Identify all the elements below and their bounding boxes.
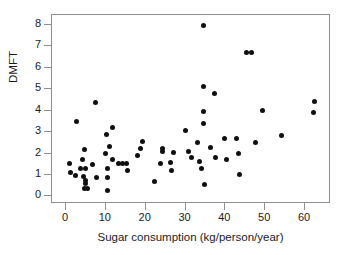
data-point <box>189 155 194 160</box>
data-point <box>312 99 317 104</box>
plot-frame <box>51 14 330 203</box>
y-tick-mark <box>44 174 51 175</box>
y-tick-mark <box>44 110 51 111</box>
data-point <box>183 128 188 133</box>
y-tick-label: 5 <box>1 82 41 93</box>
y-tick-mark <box>44 24 51 25</box>
x-tick-label: 60 <box>284 212 324 223</box>
y-tick-mark <box>44 67 51 68</box>
data-point <box>186 149 191 154</box>
data-point <box>160 149 165 154</box>
data-point <box>110 157 115 162</box>
data-point <box>82 147 87 152</box>
data-point <box>279 133 284 138</box>
data-point <box>94 175 99 180</box>
y-tick-label: 3 <box>1 125 41 136</box>
data-point <box>125 168 130 173</box>
y-tick-label: 2 <box>1 147 41 158</box>
data-point <box>105 166 110 171</box>
y-tick-label: 4 <box>1 104 41 115</box>
data-point <box>105 188 110 193</box>
data-point <box>135 153 140 158</box>
data-point <box>105 175 110 180</box>
data-point <box>107 144 112 149</box>
data-point <box>201 23 206 28</box>
data-point <box>124 161 129 166</box>
data-point <box>169 168 174 173</box>
data-point <box>201 109 206 114</box>
data-point <box>260 108 265 113</box>
plot-data-area <box>52 15 329 202</box>
y-tick-label: 6 <box>1 61 41 72</box>
data-point <box>208 145 213 150</box>
data-point <box>224 157 229 162</box>
data-point <box>73 173 78 178</box>
data-point <box>171 150 176 155</box>
data-point <box>93 100 98 105</box>
x-tick-mark <box>105 203 106 210</box>
data-point <box>83 181 88 186</box>
data-point <box>90 162 95 167</box>
data-point <box>202 182 207 187</box>
x-tick-mark <box>185 203 186 210</box>
data-point <box>104 132 109 137</box>
data-point <box>199 166 204 171</box>
x-tick-label: 50 <box>244 212 284 223</box>
data-point <box>201 84 206 89</box>
data-point <box>237 172 242 177</box>
y-tick-mark <box>44 45 51 46</box>
data-point <box>253 140 258 145</box>
x-tick-mark <box>145 203 146 210</box>
data-point <box>110 125 115 130</box>
data-point <box>212 91 217 96</box>
data-point <box>249 50 254 55</box>
data-point <box>140 139 145 144</box>
data-point <box>152 179 157 184</box>
data-point <box>195 140 200 145</box>
data-point <box>80 157 85 162</box>
x-tick-label: 40 <box>204 212 244 223</box>
y-tick-label: 1 <box>1 168 41 179</box>
x-tick-mark <box>264 203 265 210</box>
x-tick-mark <box>224 203 225 210</box>
x-tick-mark <box>304 203 305 210</box>
y-tick-mark <box>44 195 51 196</box>
data-point <box>158 161 163 166</box>
x-tick-mark <box>65 203 66 210</box>
data-point <box>67 161 72 166</box>
data-point <box>168 160 173 165</box>
y-tick-label: 0 <box>1 189 41 200</box>
data-point <box>74 119 79 124</box>
scatter-plot-figure: DMFT 012345678 0102030405060 Sugar consu… <box>0 0 350 255</box>
y-tick-mark <box>44 131 51 132</box>
data-point <box>83 166 88 171</box>
data-point <box>222 136 227 141</box>
y-tick-label: 7 <box>1 39 41 50</box>
data-point <box>103 151 108 156</box>
y-tick-mark <box>44 153 51 154</box>
data-point <box>138 146 143 151</box>
x-tick-label: 0 <box>45 212 85 223</box>
y-tick-label: 8 <box>1 18 41 29</box>
x-tick-label: 10 <box>85 212 125 223</box>
x-axis-label: Sugar consumption (kg/person/year) <box>51 231 330 243</box>
data-point <box>311 110 316 115</box>
data-point <box>201 121 206 126</box>
y-tick-mark <box>44 88 51 89</box>
data-point <box>213 155 218 160</box>
x-tick-label: 30 <box>165 212 205 223</box>
data-point <box>236 151 241 156</box>
data-point <box>197 159 202 164</box>
data-point <box>234 136 239 141</box>
x-tick-label: 20 <box>125 212 165 223</box>
